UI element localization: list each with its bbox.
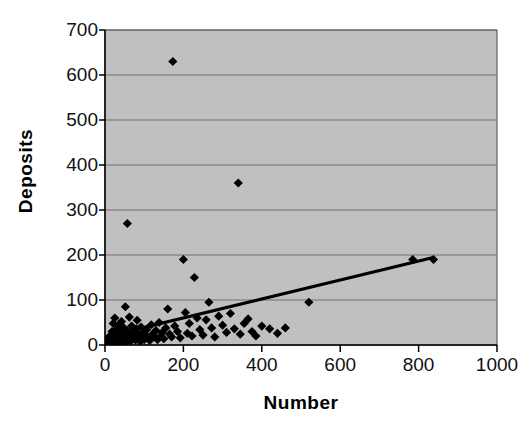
- x-tick-label: 1000: [462, 354, 532, 376]
- x-tick-label: 800: [384, 354, 454, 376]
- y-axis-title: Deposits: [15, 111, 37, 231]
- x-tick-label: 600: [305, 354, 375, 376]
- scatter-chart: 0100200300400500600700 02004006008001000…: [0, 0, 532, 439]
- x-tick-label: 200: [148, 354, 218, 376]
- x-axis-title: Number: [105, 392, 497, 414]
- x-tick-label: 0: [70, 354, 140, 376]
- x-tick-label: 400: [227, 354, 297, 376]
- x-axis-tick-labels: 02004006008001000: [0, 0, 532, 439]
